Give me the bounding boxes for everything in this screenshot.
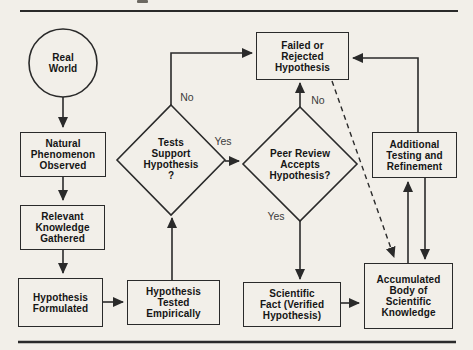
- label-line: Accepts: [280, 159, 320, 170]
- edge-label-tests-yes: Yes: [209, 135, 237, 147]
- label-line: Hypothesis: [144, 159, 199, 170]
- label-line: Phenomenon: [31, 149, 95, 160]
- arrow-additional-to-failed: [353, 58, 418, 132]
- label-line: Knowledge: [35, 222, 89, 233]
- label-line: Support: [151, 148, 190, 159]
- node-relevant-knowledge-gathered: Relevant Knowledge Gathered: [20, 205, 105, 250]
- label-line: Failed or: [281, 40, 324, 51]
- edge-label-peer-no: No: [305, 94, 331, 106]
- label-line: Hypothesis: [146, 286, 201, 297]
- label-line: Accumulated: [377, 274, 441, 285]
- label-line: ?: [168, 170, 174, 181]
- label-line: Tested: [157, 297, 189, 308]
- label-line: Peer Review: [270, 148, 330, 159]
- node-peer-review-accepts: Peer Review Accepts Hypothesis?: [250, 147, 350, 181]
- label-line: Formulated: [33, 303, 88, 314]
- label-line: Fact (Verified: [260, 299, 324, 310]
- label-line: Relevant: [41, 211, 84, 222]
- label-line: Testing and: [386, 150, 442, 161]
- label-line: Body of: [390, 285, 428, 296]
- label-line: Hypothesis: [33, 292, 88, 303]
- node-additional-testing-refinement: Additional Testing and Refinement: [372, 132, 457, 178]
- label-line: Knowledge: [381, 307, 435, 318]
- label-line: Additional: [390, 139, 440, 150]
- label-line: World: [49, 63, 78, 74]
- label-line: Gathered: [40, 233, 85, 244]
- node-scientific-fact: Scientific Fact (Verified Hypothesis): [243, 282, 341, 327]
- label-line: Hypothesis): [263, 310, 321, 321]
- node-natural-phenomenon-observed: Natural Phenomenon Observed: [20, 132, 106, 177]
- node-accumulated-body-knowledge: Accumulated Body of Scientific Knowledge: [364, 263, 453, 329]
- node-hypothesis-tested-empirically: Hypothesis Tested Empirically: [127, 280, 220, 325]
- label-line: Tests: [158, 137, 184, 148]
- edge-label-tests-no: No: [175, 91, 199, 103]
- label-line: Hypothesis?: [269, 170, 330, 181]
- node-failed-rejected-hypothesis: Failed or Rejected Hypothesis: [256, 32, 349, 80]
- label-line: Observed: [40, 160, 87, 171]
- label-line: Natural: [45, 138, 80, 149]
- label-line: Rejected: [281, 51, 324, 62]
- label-line: Hypothesis: [275, 62, 330, 73]
- label-line: Real: [52, 52, 74, 63]
- edge-label-peer-yes: Yes: [262, 210, 290, 222]
- label-line: Scientific: [269, 288, 314, 299]
- label-line: Empirically: [146, 308, 200, 319]
- label-line: Refinement: [387, 161, 442, 172]
- node-hypothesis-formulated: Hypothesis Formulated: [18, 278, 103, 327]
- node-real-world: Real World: [33, 46, 93, 80]
- scientific-method-flowchart: Real World Natural Phenomenon Observed R…: [0, 0, 473, 350]
- node-tests-support-hypothesis: Tests Support Hypothesis ?: [121, 137, 221, 181]
- label-line: Scientific: [386, 296, 431, 307]
